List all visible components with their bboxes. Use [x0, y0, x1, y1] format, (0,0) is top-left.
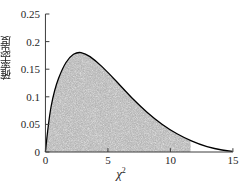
x-tick-label-3: 15 [227, 155, 238, 166]
y-axis-label: 確率密度 [0, 36, 16, 122]
x-axis-label: χ2 [0, 166, 242, 182]
y-axis-label-text: 確率密度 [0, 36, 14, 80]
chart-figure: 0 0.05 0.1 0.15 0.2 0.25 0 5 10 15 確率密度 … [0, 0, 242, 192]
x-tick-label-2: 10 [165, 155, 176, 166]
x-axis-label-exponent: 2 [122, 166, 126, 175]
y-tick-label-5: 0.25 [2, 9, 40, 20]
y-tick-label-0: 0 [2, 147, 40, 158]
x-tick-label-1: 5 [105, 155, 111, 166]
x-tick-label-0: 0 [43, 155, 49, 166]
